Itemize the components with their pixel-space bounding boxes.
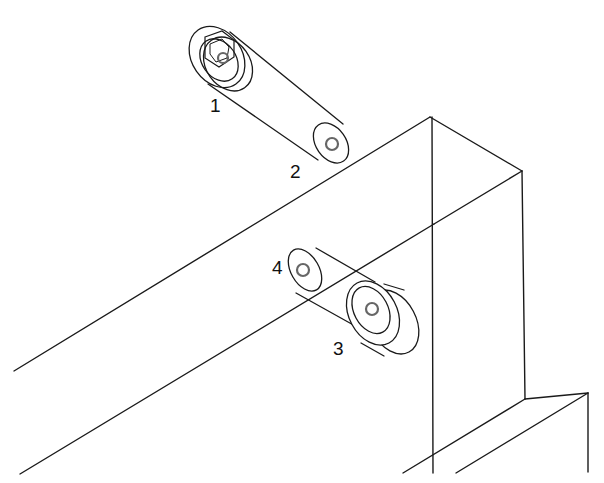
frame-edge-line: [432, 117, 433, 473]
frame-edge-line: [430, 117, 522, 171]
washer-side-edge: [384, 284, 404, 290]
frame-edge-line: [456, 393, 588, 473]
spacer-tube-end: [306, 116, 356, 169]
frame-edge-line: [434, 171, 522, 224]
callout-label-1: 1: [210, 96, 221, 115]
callout-label-4: 4: [272, 258, 283, 277]
frame-edge-line: [403, 399, 525, 473]
assembly-drawing: [0, 0, 604, 483]
frame-edge-line: [522, 171, 525, 399]
washer-back-edge: [193, 28, 262, 101]
spacer-tube-edge: [208, 84, 318, 160]
callout-label-3: 3: [333, 339, 344, 358]
callout-label-2: 2: [290, 162, 301, 181]
bolt-assembly-parts-1-2: [178, 16, 356, 170]
